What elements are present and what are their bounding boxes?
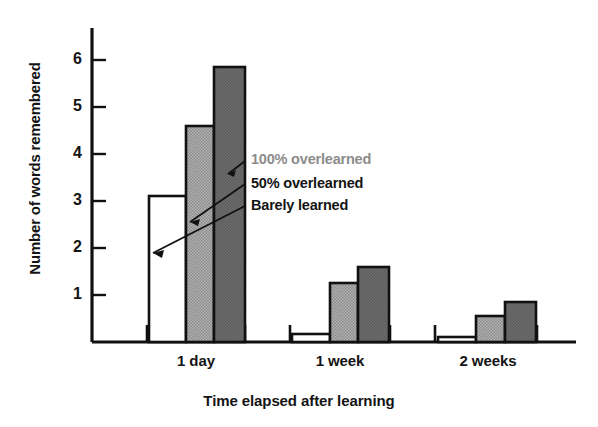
annotation-100-overlearned: 100% overlearned xyxy=(251,151,371,167)
bar-barely-learned-2-weeks xyxy=(438,337,476,342)
annotation-50-overlearned: 50% overlearned xyxy=(251,175,363,191)
bar-100-overlearned-2-weeks xyxy=(505,302,536,342)
bar-barely-learned-1-day xyxy=(149,196,186,342)
x-tick-label-1-week: 1 week xyxy=(300,352,380,369)
bar-100-overlearned-1-day xyxy=(214,67,245,342)
annotation-barely-learned: Barely learned xyxy=(251,197,348,213)
bar-50-overlearned-2-weeks xyxy=(476,316,505,342)
x-axis-title: Time elapsed after learning xyxy=(0,392,598,409)
bar-50-overlearned-1-week xyxy=(330,283,358,342)
chart-figure: Number of words remembered 6 5 4 3 2 1 xyxy=(0,0,598,427)
x-tick-label-2-weeks: 2 weeks xyxy=(446,352,530,369)
bar-100-overlearned-1-week xyxy=(358,267,389,342)
x-tick-label-1-day: 1 day xyxy=(156,352,236,369)
bar-barely-learned-1-week xyxy=(292,334,330,342)
